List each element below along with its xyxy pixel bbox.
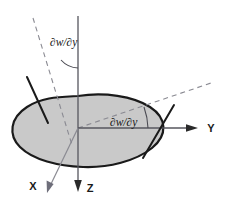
upper-rotation-label: ∂w/∂y (50, 36, 78, 49)
plate-midsurface (12, 94, 163, 167)
z-axis-label: Z (87, 182, 94, 194)
z-axis-arrowhead (74, 180, 82, 192)
rotation-angle-diagram: Z Y X ∂w/∂y ∂w/∂y (0, 0, 227, 214)
y-axis-label: Y (207, 122, 215, 134)
y-axis-arrowhead (186, 124, 198, 132)
x-axis-label: X (29, 180, 37, 192)
upper-angle-arc (61, 60, 78, 68)
figure-container: Z Y X ∂w/∂y ∂w/∂y (0, 0, 227, 214)
lower-rotation-label: ∂w/∂y (110, 116, 138, 129)
x-axis-arrowhead (47, 181, 54, 193)
